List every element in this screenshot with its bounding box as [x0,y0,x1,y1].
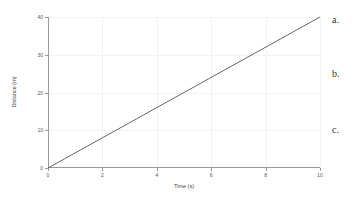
y-axis-title: Distance (m) [11,76,17,107]
y-axis-tick-label: 10 [37,127,43,133]
plot-area: 0 10 20 30 40 0 2 4 6 8 10 [48,17,320,168]
answer-choice-c[interactable]: c. [332,124,339,135]
y-axis-tick-label: 20 [37,90,43,96]
x-axis-tick-label: 0 [47,172,50,178]
answer-choice-b[interactable]: b. [332,68,340,79]
x-axis-title: Time (s) [48,183,320,189]
x-axis-tick [211,168,212,171]
y-axis-tick-label: 0 [40,165,43,171]
gridline-vertical [320,17,321,168]
x-axis-tick [266,168,267,171]
x-axis-tick-label: 6 [210,172,213,178]
x-axis-tick [48,168,49,171]
x-axis-tick-label: 4 [155,172,158,178]
y-axis-tick-label: 40 [37,14,43,20]
x-axis-tick-label: 8 [264,172,267,178]
chart-figure: 0 10 20 30 40 0 2 4 6 8 10 Time (s) Dist… [0,0,355,203]
x-axis-tick [102,168,103,171]
x-axis-tick [157,168,158,171]
data-series-line [48,17,320,168]
answer-choice-a[interactable]: a. [332,14,339,25]
y-axis-tick-label: 30 [37,52,43,58]
x-axis-tick-label: 2 [101,172,104,178]
x-axis-tick [320,168,321,171]
answer-choices: a. b. c. [332,0,355,203]
x-axis-tick-label: 10 [317,172,323,178]
